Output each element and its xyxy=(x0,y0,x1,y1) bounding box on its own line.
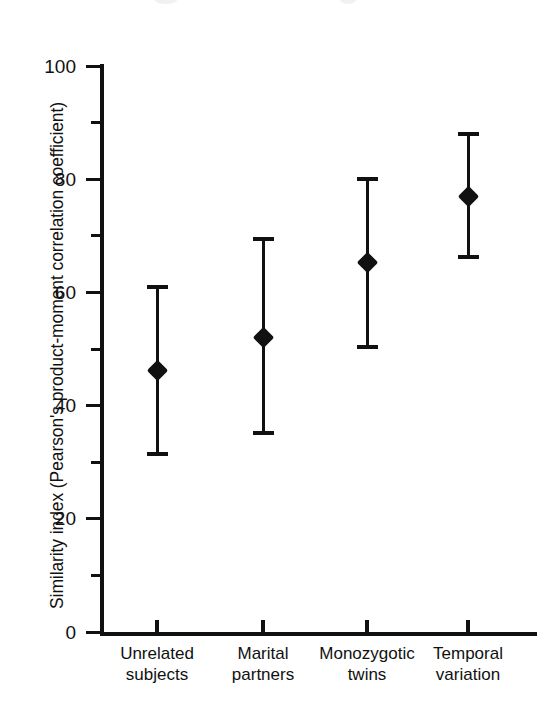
y-axis-minor-tick-10 xyxy=(91,574,100,577)
y-axis-tick-40 xyxy=(86,404,100,407)
scan-artifact xyxy=(155,0,177,4)
x-axis-line xyxy=(100,632,537,636)
similarity-index-error-bar-chart: Similarity index (Pearson's product-mome… xyxy=(0,0,545,728)
x-axis-tick-temporal-variation xyxy=(466,620,470,636)
y-axis-tick-80 xyxy=(86,178,100,181)
y-axis-minor-tick-50 xyxy=(91,348,100,351)
x-axis-tick-unrelated-subjects xyxy=(155,620,159,636)
error-bar-lower-cap-monozygotic-twins xyxy=(357,345,378,349)
y-axis-tick-60 xyxy=(86,291,100,294)
x-axis-tick-marital-partners xyxy=(261,620,265,636)
data-point-marker-unrelated-subjects xyxy=(147,360,168,381)
x-axis-tick-label-line-1: Temporal xyxy=(388,644,545,665)
error-bar-lower-cap-unrelated-subjects xyxy=(147,452,168,456)
y-axis-minor-tick-30 xyxy=(91,461,100,464)
data-point-marker-temporal-variation xyxy=(458,186,479,207)
y-axis-minor-tick-70 xyxy=(91,234,100,237)
x-axis-tick-label-line-2: variation xyxy=(388,665,545,686)
error-bar-lower-cap-temporal-variation xyxy=(458,255,479,259)
y-axis-tick-label-60: 60 xyxy=(16,283,76,302)
error-bar-upper-cap-unrelated-subjects xyxy=(147,285,168,289)
y-axis-tick-label-100: 100 xyxy=(16,57,76,76)
scan-artifact xyxy=(340,0,356,4)
y-axis-title: Similarity index (Pearson's product-mome… xyxy=(47,56,68,656)
y-axis-tick-0 xyxy=(86,631,100,634)
x-axis-tick-label-temporal-variation: Temporal variation xyxy=(388,644,545,685)
x-axis-tick-monozygotic-twins xyxy=(365,620,369,636)
data-point-marker-marital-partners xyxy=(253,327,274,348)
y-axis-tick-20 xyxy=(86,517,100,520)
y-axis-minor-tick-90 xyxy=(91,121,100,124)
data-point-marker-monozygotic-twins xyxy=(357,252,378,273)
y-axis-tick-100 xyxy=(86,65,100,68)
error-bar-lower-cap-marital-partners xyxy=(253,431,274,435)
y-axis-tick-label-0: 0 xyxy=(16,623,76,642)
y-axis-line xyxy=(100,64,104,636)
y-axis-tick-label-80: 80 xyxy=(16,170,76,189)
error-bar-upper-cap-temporal-variation xyxy=(458,132,479,136)
y-axis-tick-label-40: 40 xyxy=(16,396,76,415)
error-bar-upper-cap-marital-partners xyxy=(253,237,274,241)
y-axis-tick-label-20: 20 xyxy=(16,509,76,528)
error-bar-upper-cap-monozygotic-twins xyxy=(357,177,378,181)
